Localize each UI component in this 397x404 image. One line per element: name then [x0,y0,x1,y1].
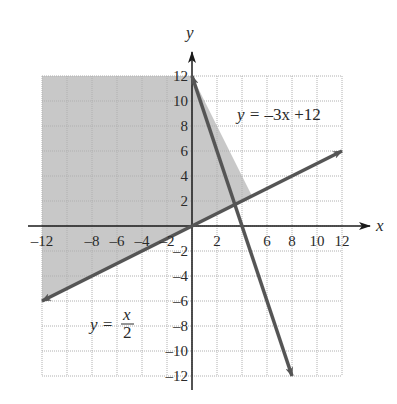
y-tick-label: –2 [172,243,188,259]
svg-text:y =: y = [88,315,113,334]
x-tick-label: 8 [288,233,296,249]
shaded-region [42,76,252,301]
y-tick-label: 10 [173,93,188,109]
y-tick-label: –4 [172,268,189,284]
shaded-polygon [42,76,252,301]
equation-label-line2: y = x 2 [88,305,134,342]
y-tick-label: 4 [181,168,189,184]
y-tick-label: –12 [165,368,189,384]
y-tick-label: 2 [181,193,189,209]
y-tick-label: 12 [173,68,188,84]
x-axis-label: x [375,216,384,235]
y-tick-label: 6 [181,143,189,159]
x-tick-label: 12 [335,233,350,249]
x-tick-label: –8 [84,233,100,249]
svg-text:x: x [122,305,131,324]
x-tick-label: –4 [134,233,151,249]
svg-text:2: 2 [123,323,132,342]
x-tick-label: 6 [263,233,271,249]
y-tick-label: 8 [181,118,189,134]
y-tick-label: –8 [172,318,188,334]
y-tick-label: –10 [165,343,189,359]
y-tick-label: –6 [172,293,189,309]
x-tick-label: –12 [30,233,54,249]
x-tick-label: –6 [109,233,126,249]
inequality-graph: –12–8–6–4–2268101212108642–2–4–6–8–10–12… [0,0,397,404]
x-tick-label: 2 [213,233,221,249]
equation-label-line1: y = –3x +12 [235,105,321,124]
y-axis-label: y [184,23,194,42]
x-tick-label: 10 [310,233,325,249]
